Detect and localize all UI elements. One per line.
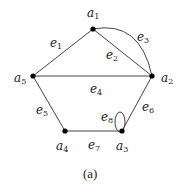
edge-label-e8: e8 bbox=[101, 110, 113, 125]
edge-label-e5: e5 bbox=[36, 103, 48, 118]
graph-diagram: a1a2a3a4a5 e1e2e3e4e5e6e7e8 (a) bbox=[0, 0, 183, 185]
edge-label-e7: e7 bbox=[88, 138, 100, 153]
edge-labels: e1e2e3e4e5e6e7e8 bbox=[36, 30, 154, 153]
figure-caption: (a) bbox=[83, 166, 97, 181]
node-label-a4: a4 bbox=[56, 139, 68, 154]
edge-label-e2: e2 bbox=[106, 48, 118, 63]
node-a5 bbox=[30, 73, 35, 78]
edge-label-e3: e3 bbox=[137, 30, 149, 45]
edge-label-e1: e1 bbox=[50, 36, 62, 51]
node-a2 bbox=[149, 73, 154, 78]
node-a4 bbox=[62, 128, 67, 133]
edge-e1 bbox=[33, 29, 93, 76]
node-label-a3: a3 bbox=[116, 139, 128, 154]
node-label-a1: a1 bbox=[87, 6, 99, 21]
edge-label-e4: e4 bbox=[90, 82, 102, 97]
node-label-a2: a2 bbox=[161, 71, 173, 86]
edge-label-e6: e6 bbox=[142, 100, 154, 115]
node-label-a5: a5 bbox=[14, 71, 26, 86]
node-a1 bbox=[90, 26, 95, 31]
node-a3 bbox=[119, 128, 124, 133]
